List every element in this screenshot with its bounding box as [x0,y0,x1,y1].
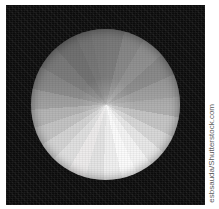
photograph [6,5,205,205]
screenshot-root: esbsauda/Shutterstock.com [0,0,219,209]
disc-facets [31,29,180,180]
watermark: esbsauda/Shutterstock.com [205,0,219,209]
watermark-credit-text: esbsauda/Shutterstock.com [207,104,217,203]
folded-paper-disc [31,29,180,180]
